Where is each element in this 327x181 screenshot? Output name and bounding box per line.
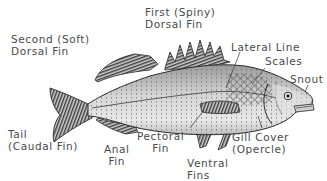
label-line: Dorsal Fin: [11, 45, 90, 57]
label-line: Fin: [137, 142, 184, 154]
label-line: Ventral: [187, 157, 228, 169]
label-line: Fin: [104, 155, 130, 167]
label-lateral-line: Lateral Line: [231, 41, 300, 53]
label-line: Fins: [187, 169, 228, 181]
label-line: Dorsal Fin: [145, 18, 216, 30]
scales-patch: [226, 73, 272, 105]
label-line: (Caudal Fin): [8, 140, 78, 152]
label-gill-cover: Gill Cover (Opercle): [232, 131, 289, 155]
label-scales: Scales: [265, 55, 302, 67]
label-line: Tail: [8, 128, 78, 140]
label-line: (Opercle): [232, 143, 289, 155]
label-pectoral-fin: Pectoral Fin: [137, 130, 184, 154]
label-line: Anal: [104, 143, 130, 155]
label-second-dorsal-fin: Second (Soft) Dorsal Fin: [11, 33, 90, 57]
label-line: Second (Soft): [11, 33, 90, 45]
label-line: Gill Cover: [232, 131, 289, 143]
fish-anatomy-diagram: Second (Soft) Dorsal Fin First (Spiny) D…: [0, 0, 327, 181]
label-line: Pectoral: [137, 130, 184, 142]
label-tail: Tail (Caudal Fin): [8, 128, 78, 152]
pectoral-fin-shape: [200, 101, 240, 114]
label-line: First (Spiny): [145, 6, 216, 18]
label-ventral-fins: Ventral Fins: [187, 157, 228, 181]
label-snout: Snout: [290, 73, 324, 85]
label-first-dorsal-fin: First (Spiny) Dorsal Fin: [145, 6, 216, 30]
label-anal-fin: Anal Fin: [104, 143, 130, 167]
